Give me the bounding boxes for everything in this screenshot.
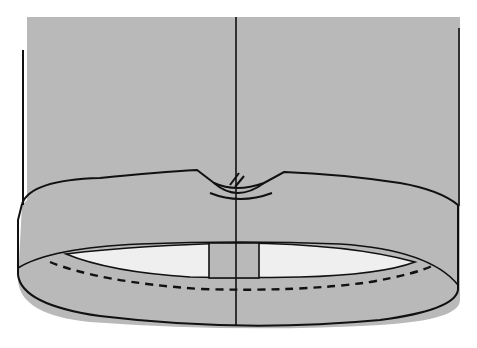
facing-tab bbox=[209, 243, 259, 278]
illustration-canvas bbox=[0, 0, 477, 348]
garment-diagram bbox=[0, 0, 477, 348]
garment-body bbox=[18, 17, 460, 328]
